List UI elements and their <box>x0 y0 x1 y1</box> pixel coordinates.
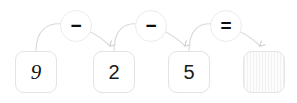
operator-symbol-3: = <box>220 16 231 35</box>
equation-strip: 9 2 5 − − = <box>0 0 297 103</box>
operand-value-2: 2 <box>108 62 119 82</box>
operand-box-2[interactable]: 2 <box>93 51 135 93</box>
answer-box[interactable] <box>243 51 285 93</box>
minus-sign-icon-2[interactable]: − <box>135 10 167 42</box>
equals-sign-icon[interactable]: = <box>210 10 242 42</box>
minus-sign-icon-1[interactable]: − <box>60 10 92 42</box>
operand-box-3[interactable]: 5 <box>168 51 210 93</box>
operator-symbol-1: − <box>70 16 81 35</box>
operand-value-3: 5 <box>183 62 194 82</box>
operator-symbol-2: − <box>145 16 156 35</box>
operand-value-1: 9 <box>31 62 42 83</box>
operand-box-1[interactable]: 9 <box>15 51 57 93</box>
